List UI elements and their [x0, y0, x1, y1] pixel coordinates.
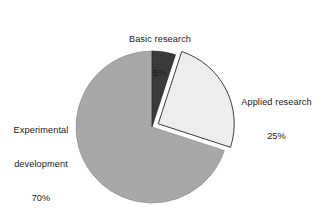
slice-label-applied-research-name: Applied research — [234, 97, 319, 108]
slice-label-basic-research-name: Basic research — [110, 34, 210, 45]
slice-label-experimental-development: Experimental development 70% — [2, 103, 80, 224]
slice-label-applied-research-value: 25% — [234, 131, 319, 142]
pie-chart-figure: Basic research 5% Applied research 25% E… — [0, 0, 319, 224]
slice-label-basic-research: Basic research 5% — [110, 12, 210, 102]
slice-label-applied-research: Applied research 25% — [234, 75, 319, 165]
slice-label-experimental-development-value: 70% — [2, 193, 80, 204]
slice-label-basic-research-value: 5% — [110, 68, 210, 79]
slice-label-experimental-development-name-line1: Experimental — [2, 125, 80, 136]
slice-label-experimental-development-name-line2: development — [2, 159, 80, 170]
